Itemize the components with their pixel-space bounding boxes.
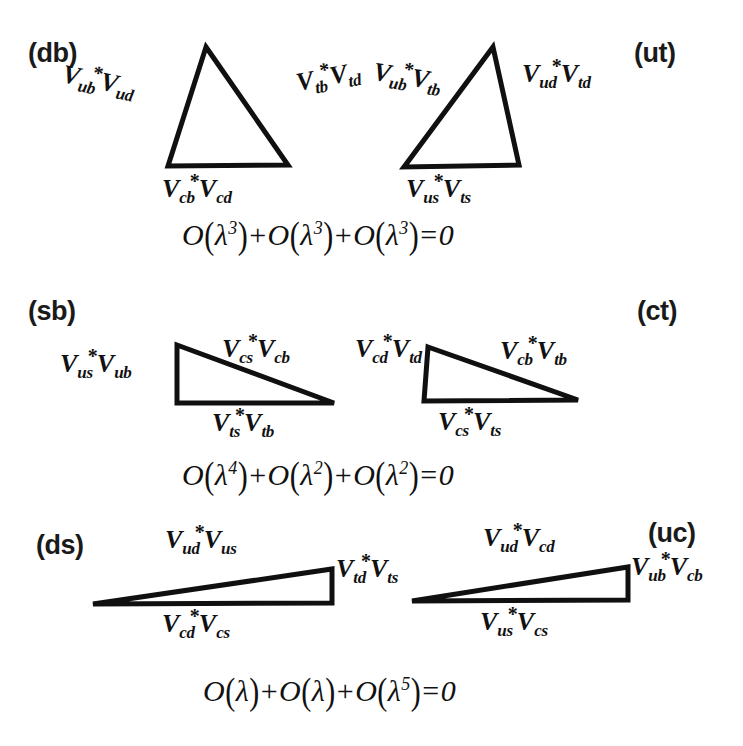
lambda-symbol: λ	[388, 674, 402, 707]
row-3-equation: O(λ)+O(λ)+O(λ5)=0	[203, 674, 456, 708]
triangle-uc-right-label: Vub*Vcb	[631, 548, 703, 586]
equals-operator: =	[422, 674, 439, 707]
equation-result: 0	[441, 674, 457, 707]
triangle-uc	[0, 0, 743, 746]
vlabel-v2: V	[670, 552, 687, 581]
vlabel-v1: V	[483, 523, 500, 552]
vlabel-v1: V	[480, 607, 497, 636]
vlabel-v2: V	[517, 607, 534, 636]
triangle-uc-top-label: Vud*Vcd	[483, 519, 555, 557]
big-o: O	[203, 674, 225, 707]
ckm-unitarity-triangles-figure: (db) (ut) Vub*Vud Vtb*Vtd Vcb*Vcd Vub*Vt…	[0, 0, 743, 746]
vlabel-s2: cs	[534, 621, 548, 640]
vlabel-v1: V	[631, 552, 648, 581]
lambda-symbol: λ	[236, 674, 250, 707]
exponent: 5	[401, 674, 411, 694]
big-o: O	[279, 674, 301, 707]
vlabel-s2: cd	[539, 537, 554, 556]
lambda-symbol: λ	[312, 674, 326, 707]
plus-operator: +	[337, 674, 354, 707]
vlabel-v2: V	[522, 523, 539, 552]
triangle-uc-base-label: Vus*Vcs	[480, 603, 548, 641]
plus-operator: +	[261, 674, 278, 707]
vlabel-s2: cb	[687, 566, 702, 585]
big-o: O	[355, 674, 377, 707]
